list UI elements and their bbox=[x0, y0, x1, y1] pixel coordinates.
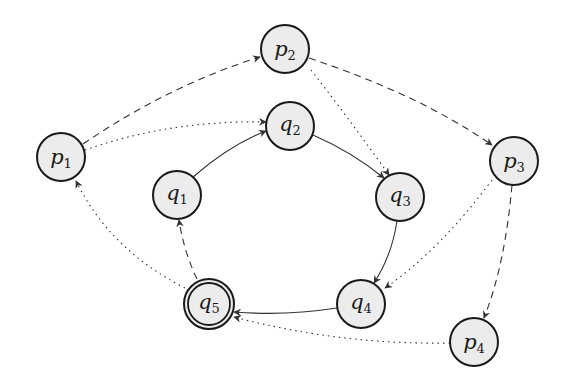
edge-p4-q5 bbox=[234, 317, 450, 343]
state-p3[interactable]: p3 bbox=[490, 137, 538, 185]
state-q3[interactable]: q3 bbox=[376, 173, 424, 221]
automaton-diagram: p1 p2 p3 p4 q1 q2 q3 q4 bbox=[0, 0, 567, 389]
state-p2[interactable]: p2 bbox=[261, 25, 309, 73]
state-q1[interactable]: q1 bbox=[153, 171, 201, 219]
edge-q4-q5 bbox=[234, 308, 337, 313]
state-p4[interactable]: p4 bbox=[450, 318, 498, 366]
edge-q3-q4 bbox=[374, 221, 397, 283]
edge-p3-p4 bbox=[484, 185, 512, 318]
edge-q5-q1 bbox=[179, 220, 197, 279]
state-q4[interactable]: q4 bbox=[337, 280, 385, 328]
state-q2[interactable]: q2 bbox=[266, 102, 314, 150]
edges bbox=[76, 57, 512, 343]
edge-q2-q3 bbox=[313, 135, 384, 178]
edge-p2-q3 bbox=[311, 70, 389, 175]
edge-p1-q2 bbox=[85, 122, 266, 150]
edge-p2-p3 bbox=[309, 58, 492, 145]
state-p1[interactable]: p1 bbox=[37, 133, 85, 181]
nodes: p1 p2 p3 p4 q1 q2 q3 q4 bbox=[37, 25, 538, 366]
edge-p1-p2 bbox=[83, 57, 260, 144]
state-q5-accepting[interactable]: q5 bbox=[184, 279, 234, 329]
edge-q1-q2 bbox=[193, 131, 266, 177]
